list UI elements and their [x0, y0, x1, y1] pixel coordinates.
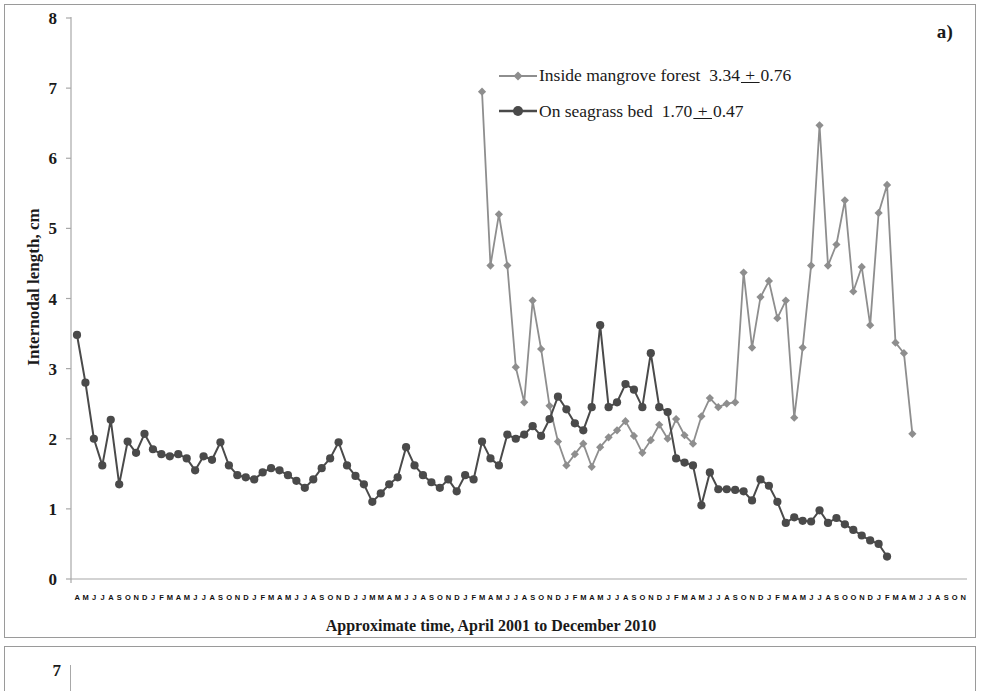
data-point-circle — [841, 520, 849, 528]
x-tick: J — [765, 593, 773, 602]
data-point-diamond — [807, 261, 815, 269]
x-tick: J — [149, 593, 157, 602]
data-point-circle — [309, 475, 317, 483]
x-tick: N — [233, 593, 241, 602]
x-tick: D — [141, 593, 149, 602]
x-tick: D — [655, 593, 663, 602]
x-tick: M — [377, 593, 385, 602]
data-point-circle — [351, 472, 359, 480]
x-tick: J — [292, 593, 300, 602]
data-point-circle — [444, 475, 452, 483]
figure-page: a) Internodal length, cm 012345678 Insid… — [0, 0, 981, 691]
data-point-circle — [107, 416, 115, 424]
x-tick: S — [318, 593, 326, 602]
data-point-circle — [469, 475, 477, 483]
data-point-circle — [529, 422, 537, 430]
x-tick: J — [98, 593, 106, 602]
data-point-circle — [697, 501, 705, 509]
data-point-diamond — [756, 293, 764, 301]
data-point-circle — [402, 443, 410, 451]
data-point-diamond — [832, 240, 840, 248]
x-tick: M — [394, 593, 402, 602]
data-point-circle — [849, 526, 857, 534]
x-tick: J — [917, 593, 925, 602]
x-tick: J — [562, 593, 570, 602]
data-point-circle — [503, 430, 511, 438]
data-point-diamond — [495, 210, 503, 218]
x-tick: J — [816, 593, 824, 602]
data-point-circle — [326, 454, 334, 462]
x-tick: N — [858, 593, 866, 602]
data-point-circle — [630, 386, 638, 394]
x-tick: S — [427, 593, 435, 602]
x-tick: M — [891, 593, 899, 602]
x-tick: A — [689, 593, 697, 602]
x-tick: M — [495, 593, 503, 602]
data-point-circle — [621, 380, 629, 388]
x-tick: N — [335, 593, 343, 602]
legend-item-seagrass: On seagrass bed1.70 + 0.47 — [499, 103, 791, 121]
data-point-circle — [318, 464, 326, 472]
data-point-circle — [858, 531, 866, 539]
x-axis-title: Approximate time, April 2001 to December… — [5, 617, 977, 635]
x-tick: S — [115, 593, 123, 602]
x-tick: F — [259, 593, 267, 602]
plot-area — [5, 5, 975, 637]
data-point-circle — [664, 408, 672, 416]
data-point-diamond — [529, 297, 537, 305]
x-tick: D — [242, 593, 250, 602]
data-point-circle — [773, 498, 781, 506]
data-point-circle — [157, 450, 165, 458]
data-point-diamond — [486, 261, 494, 269]
data-point-circle — [756, 475, 764, 483]
data-point-circle — [250, 475, 258, 483]
data-point-circle — [343, 461, 351, 469]
x-tick: J — [351, 593, 359, 602]
x-tick: M — [368, 593, 376, 602]
data-point-circle — [377, 489, 385, 497]
chart-panel-b-partial: 7 — [4, 646, 976, 691]
x-axis-tick-labels: AMJJASONDJFMAMJJASONDJFMAMJJASONDJJMMAMJ… — [73, 593, 969, 602]
data-point-circle — [596, 321, 604, 329]
x-tick: A — [309, 593, 317, 602]
x-tick: A — [385, 593, 393, 602]
x-tick: N — [647, 593, 655, 602]
x-tick: A — [934, 593, 942, 602]
data-point-circle — [368, 498, 376, 506]
x-tick: J — [503, 593, 511, 602]
data-point-circle — [815, 506, 823, 514]
x-tick: S — [942, 593, 950, 602]
data-point-circle — [115, 480, 123, 488]
series-mangrove — [478, 88, 917, 471]
x-tick: A — [208, 593, 216, 602]
x-tick: N — [959, 593, 967, 602]
x-tick: N — [748, 593, 756, 602]
data-point-circle — [689, 461, 697, 469]
x-tick: F — [470, 593, 478, 602]
legend-item-mangrove: Inside mangrove forest3.34 + 0.76 — [499, 67, 791, 85]
x-tick: M — [908, 593, 916, 602]
legend-label-mangrove: Inside mangrove forest3.34 + 0.76 — [539, 67, 791, 85]
data-point-circle — [562, 405, 570, 413]
data-point-circle — [419, 471, 427, 479]
data-point-circle — [208, 456, 216, 464]
x-tick: M — [166, 593, 174, 602]
x-tick: O — [436, 593, 444, 602]
data-point-circle — [140, 430, 148, 438]
x-tick: A — [419, 593, 427, 602]
x-tick: D — [866, 593, 874, 602]
x-tick: M — [596, 593, 604, 602]
x-tick: M — [799, 593, 807, 602]
data-point-circle — [883, 552, 891, 560]
legend-marker-seagrass — [499, 104, 537, 118]
x-tick: J — [706, 593, 714, 602]
data-point-circle — [680, 458, 688, 466]
data-point-circle — [132, 449, 140, 457]
data-point-circle — [731, 486, 739, 494]
x-tick: O — [537, 593, 545, 602]
data-point-circle — [242, 473, 250, 481]
data-point-circle — [579, 426, 587, 434]
data-point-circle — [394, 473, 402, 481]
x-tick: J — [200, 593, 208, 602]
data-point-circle — [149, 445, 157, 453]
